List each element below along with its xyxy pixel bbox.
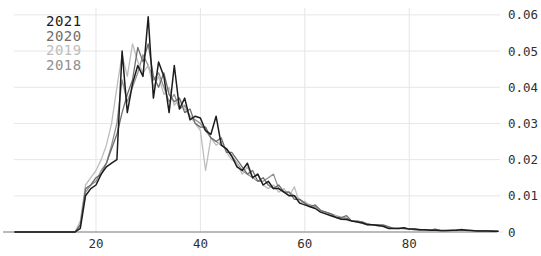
series-line-2019[interactable] xyxy=(15,44,498,232)
x-tick-label: 60 xyxy=(297,236,312,251)
series-line-2021[interactable] xyxy=(15,17,498,232)
y-tick-label: 0.04 xyxy=(508,80,538,95)
y-tick-label: 0.06 xyxy=(508,7,538,22)
legend-item-2020[interactable]: 2020 xyxy=(46,29,82,44)
legend-item-2019[interactable]: 2019 xyxy=(46,43,82,58)
series-line-2018[interactable] xyxy=(15,55,498,232)
y-tick-label: 0.05 xyxy=(508,44,538,59)
x-tick-label: 80 xyxy=(402,236,417,251)
y-tick-label: 0.03 xyxy=(508,116,538,131)
y-tick-label: 0.01 xyxy=(508,188,538,203)
series-line-2020[interactable] xyxy=(15,44,498,232)
legend-item-2018[interactable]: 2018 xyxy=(46,58,82,73)
y-tick-label: 0 xyxy=(508,225,516,240)
y-tick-label: 0.02 xyxy=(508,152,538,167)
legend: 2021202020192018 xyxy=(46,14,82,72)
line-chart: 2040608000.010.020.030.040.050.06 202120… xyxy=(0,0,541,256)
x-tick-label: 40 xyxy=(193,236,208,251)
x-tick-label: 20 xyxy=(88,236,103,251)
legend-item-2021[interactable]: 2021 xyxy=(46,14,82,29)
